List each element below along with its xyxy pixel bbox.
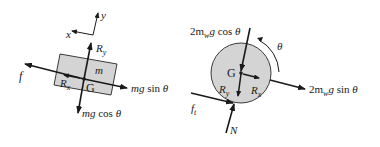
weight-parallel-arrow [270,80,305,89]
center-of-mass-dot [239,71,243,75]
reaction-y-label: Ry [95,42,107,57]
x-axis-label: x [65,28,71,40]
coordinate-axes: y x [65,9,106,40]
weight-parallel-label: 2mwg sin θ [309,83,358,98]
rotation-label: θ [277,40,283,52]
y-axis-label: y [100,9,106,21]
x-axis-arrow [72,31,93,35]
center-label: G [86,81,95,95]
rotation-arrowhead-icon [257,37,263,42]
traction-label: ft [191,102,197,117]
center-label: G [227,66,236,80]
weight-parallel-label: mg sin θ [131,82,169,94]
weight-normal-label: mg cos θ [82,107,122,119]
friction-label: f [19,69,24,83]
weight-normal-label: 2mwg cos θ [190,25,241,40]
free-body-diagram: y x Ry m Rx G f mg sin θ mg cos θ θ 2mwg… [0,0,380,147]
y-axis-arrow [93,13,98,35]
wheel-diagram: θ 2mwg cos θ G Ry Rx 2mwg sin θ ft N [190,25,358,136]
normal-force-label: N [229,124,238,136]
block-diagram: y x Ry m Rx G f mg sin θ mg cos θ [19,9,169,119]
mass-label: m [95,64,103,76]
